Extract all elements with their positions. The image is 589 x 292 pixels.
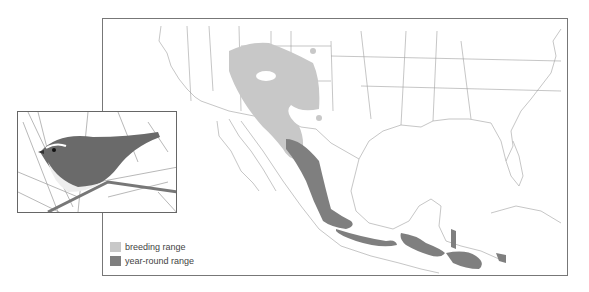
year-round-range-swatch: [110, 256, 121, 266]
bird-illustration-inset: [17, 111, 177, 213]
breeding-range-swatch: [110, 242, 121, 252]
legend-label: year-round range: [125, 256, 194, 266]
legend-label: breeding range: [125, 242, 186, 252]
legend-item-breeding: breeding range: [110, 240, 194, 253]
map-legend: breeding range year-round range: [110, 240, 194, 268]
bird-illustration: [18, 112, 177, 213]
legend-item-year-round: year-round range: [110, 254, 194, 267]
